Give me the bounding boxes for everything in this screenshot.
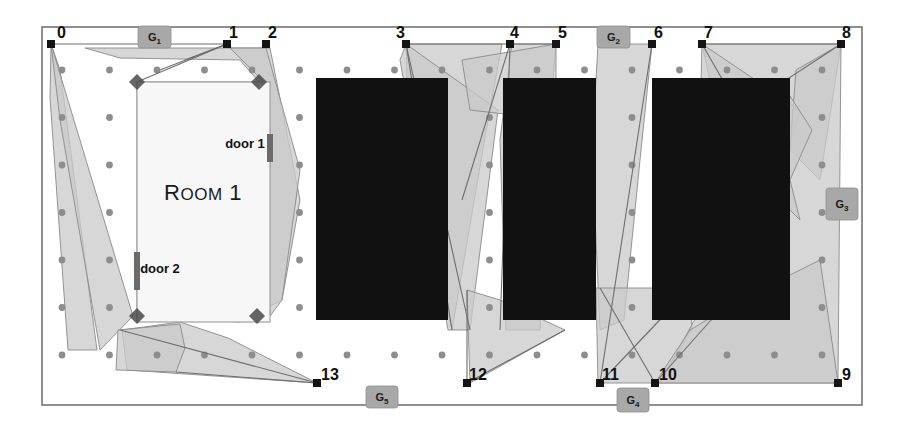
vertex-7-label: 7: [704, 24, 713, 41]
vertex-10-label: 10: [659, 366, 677, 383]
grid-dot: [724, 352, 731, 359]
vertex-1-marker[interactable]: [223, 40, 231, 48]
grid-dot: [629, 352, 636, 359]
gate-letter: G: [148, 31, 157, 43]
gate-subscript: 3: [844, 204, 849, 213]
grid-dot: [724, 67, 731, 74]
vertex-11-label: 11: [602, 366, 619, 383]
grid-dot: [59, 352, 66, 359]
grid-dot: [819, 162, 826, 169]
obstacle-c: [652, 78, 790, 320]
grid-dot: [819, 257, 826, 264]
grid-dot: [629, 257, 636, 264]
grid-dot: [106, 209, 113, 216]
grid-dot: [296, 162, 303, 169]
grid-dot: [486, 209, 493, 216]
room-label-number: 1: [223, 180, 242, 205]
grid-dot: [581, 352, 588, 359]
grid-dot: [486, 304, 493, 311]
vertex-5-label: 5: [558, 24, 567, 41]
gate-g4[interactable]: G4: [617, 388, 649, 412]
vertex-4-label: 4: [510, 24, 519, 41]
gate-subscript: 1: [157, 37, 162, 46]
gate-subscript: 5: [384, 397, 389, 406]
vertex-3-marker[interactable]: [402, 40, 410, 48]
grid-dot: [106, 67, 113, 74]
door-label-2: door 2: [140, 261, 180, 276]
grid-dot: [629, 209, 636, 216]
floorplan-canvas: G1G2G3G4G5 012345678910111213 ROOM 1door…: [0, 0, 901, 430]
grid-dot: [249, 352, 256, 359]
grid-dot: [391, 352, 398, 359]
vertex-6-marker[interactable]: [648, 40, 656, 48]
obstacle-b: [503, 78, 596, 320]
grid-dot: [534, 352, 541, 359]
vertex-13-marker[interactable]: [313, 379, 321, 387]
vertex-2-marker[interactable]: [262, 40, 270, 48]
grid-dot: [391, 67, 398, 74]
floorplan-figure: G1G2G3G4G5 012345678910111213 ROOM 1door…: [0, 0, 901, 430]
grid-dot: [819, 352, 826, 359]
grid-dot: [771, 67, 778, 74]
grid-dot: [486, 67, 493, 74]
vertex-12-label: 12: [469, 366, 487, 383]
grid-dot: [59, 114, 66, 121]
door-mark-1[interactable]: [267, 134, 273, 162]
door-label-1: door 1: [225, 136, 265, 151]
gate-g3[interactable]: G3: [826, 188, 858, 220]
grid-dot: [106, 304, 113, 311]
obstacle-a: [316, 78, 448, 320]
grid-dot: [439, 67, 446, 74]
vertex-6-label: 6: [654, 24, 663, 41]
grid-dot: [106, 162, 113, 169]
grid-dot: [59, 209, 66, 216]
grid-dot: [344, 352, 351, 359]
grid-dot: [59, 162, 66, 169]
grid-dot: [819, 67, 826, 74]
grid-dot: [676, 67, 683, 74]
gate-subscript: 4: [635, 400, 640, 409]
vertex-8-label: 8: [842, 24, 851, 41]
vertex-0-marker[interactable]: [47, 40, 55, 48]
grid-dot: [296, 209, 303, 216]
grid-dot: [629, 114, 636, 121]
vertex-2-label: 2: [268, 24, 277, 41]
grid-dot: [629, 162, 636, 169]
grid-dot: [296, 257, 303, 264]
vertex-9-marker[interactable]: [834, 379, 842, 387]
vertex-9-label: 9: [842, 366, 851, 383]
vertex-5-marker[interactable]: [552, 40, 560, 48]
grid-dot: [819, 114, 826, 121]
grid-dot: [59, 67, 66, 74]
gate-letter: G: [607, 31, 616, 43]
door-mark-2[interactable]: [134, 252, 140, 290]
grid-dot: [819, 209, 826, 216]
grid-dot: [201, 67, 208, 74]
vertex-7-marker[interactable]: [698, 40, 706, 48]
grid-dot: [59, 257, 66, 264]
vertex-4-marker[interactable]: [506, 40, 514, 48]
vertex-3-label: 3: [396, 24, 405, 41]
grid-dot: [106, 352, 113, 359]
grid-dot: [629, 67, 636, 74]
grid-dot: [106, 114, 113, 121]
obstacles-layer: [316, 78, 790, 320]
grid-dot: [249, 67, 256, 74]
grid-dot: [296, 352, 303, 359]
gate-subscript: 2: [616, 37, 621, 46]
gate-g5[interactable]: G5: [366, 386, 398, 408]
gate-letter: G: [375, 391, 384, 403]
grid-dot: [771, 352, 778, 359]
room-label-rest: OOM: [180, 185, 222, 204]
vertex-1-label: 1: [229, 24, 238, 41]
vertex-13-label: 13: [321, 366, 339, 383]
grid-dot: [534, 67, 541, 74]
grid-dot: [296, 114, 303, 121]
vertex-8-marker[interactable]: [837, 40, 845, 48]
room-label-initial: R: [164, 180, 180, 205]
vertex-10-marker[interactable]: [651, 379, 659, 387]
gate-g2[interactable]: G2: [597, 26, 630, 48]
grid-dot: [106, 257, 113, 264]
grid-dot: [486, 257, 493, 264]
gate-g1[interactable]: G1: [138, 26, 171, 48]
